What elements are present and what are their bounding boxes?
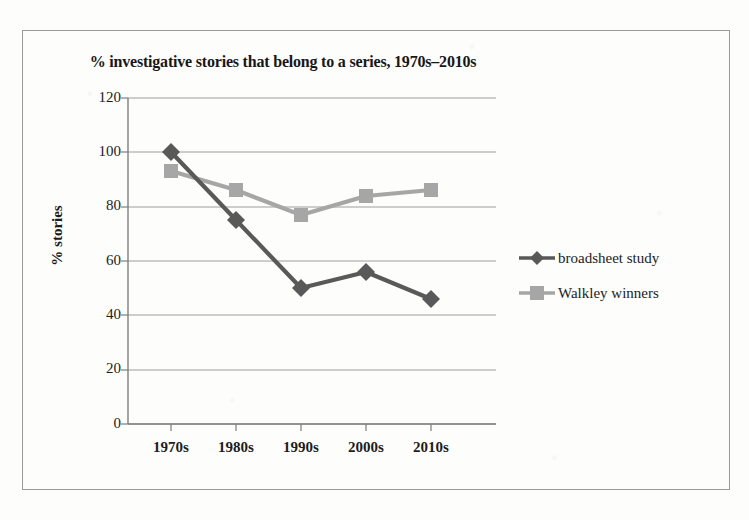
data-point-walkley-2010s [424, 183, 438, 197]
series-walkley-winners [164, 164, 438, 222]
data-point-walkley-2000s [359, 189, 373, 203]
series-broadsheet-study [162, 143, 440, 308]
square-marker-icon [518, 284, 556, 302]
legend-item-walkley-winners[interactable]: Walkley winners [518, 284, 659, 302]
gridlines [128, 98, 496, 424]
series-line-broadsheet-study [171, 152, 431, 299]
legend-label-broadsheet-study: broadsheet study [558, 250, 659, 267]
data-point-broadsheet-2010s [422, 290, 440, 308]
data-point-walkley-1970s [164, 164, 178, 178]
data-point-broadsheet-2000s [357, 263, 375, 281]
chart-frame: % investigative stories that belong to a… [22, 30, 730, 490]
legend-item-broadsheet-study[interactable]: broadsheet study [518, 249, 659, 267]
data-point-walkley-1980s [229, 183, 243, 197]
diamond-marker-icon [518, 249, 556, 267]
legend-label-walkley-winners: Walkley winners [558, 285, 659, 302]
data-point-walkley-1990s [294, 208, 308, 222]
